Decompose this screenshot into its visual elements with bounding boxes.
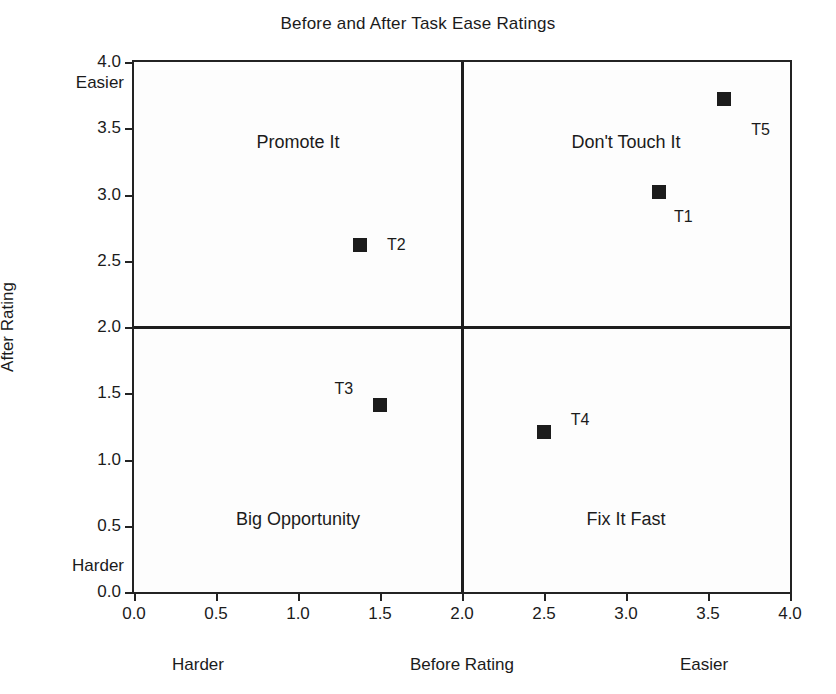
- data-point-t5: [717, 92, 731, 106]
- x-axis-tick: [626, 592, 628, 601]
- y-axis-tick-label: 0.0: [97, 582, 121, 602]
- chart-title: Before and After Task Ease Ratings: [0, 14, 836, 34]
- x-axis-tick: [708, 592, 710, 601]
- x-axis-tick: [544, 592, 546, 601]
- y-axis-tick: [125, 195, 134, 197]
- quadrant-label-bottom-right: Fix It Fast: [586, 509, 665, 530]
- data-point-label-t1: T1: [674, 208, 693, 226]
- data-point-t1: [652, 185, 666, 199]
- x-axis-tick-label: 1.5: [368, 604, 392, 624]
- y-axis-tick-label: 1.5: [97, 383, 121, 403]
- y-axis-tick-label: 3.0: [97, 185, 121, 205]
- y-axis-tick: [125, 327, 134, 329]
- x-axis-tick-label: 3.5: [696, 604, 720, 624]
- x-axis-tick-label: 0.5: [204, 604, 228, 624]
- data-point-label-t2: T2: [387, 236, 406, 254]
- plot-area: 0.00.51.01.52.02.53.03.54.00.00.51.01.52…: [132, 60, 792, 594]
- x-axis-tick-label: 2.0: [450, 604, 474, 624]
- x-axis-title: Before Rating: [410, 655, 514, 675]
- chart-figure: Before and After Task Ease Ratings 0.00.…: [0, 0, 836, 694]
- horizontal-reference-line: [134, 326, 790, 329]
- y-axis-high-annotation: Easier: [76, 73, 124, 93]
- y-axis-tick: [125, 128, 134, 130]
- y-axis-tick-label: 0.5: [97, 516, 121, 536]
- x-axis-tick: [216, 592, 218, 601]
- y-axis-tick: [125, 261, 134, 263]
- x-axis-tick: [380, 592, 382, 601]
- y-axis-tick-label: 2.5: [97, 251, 121, 271]
- y-axis-tick-label: 2.0: [97, 317, 121, 337]
- data-point-label-t4: T4: [571, 411, 590, 429]
- y-axis-tick: [125, 592, 134, 594]
- y-axis-tick: [125, 393, 134, 395]
- x-axis-tick-label: 4.0: [778, 604, 802, 624]
- data-point-label-t5: T5: [751, 121, 770, 139]
- y-axis-low-annotation: Harder: [72, 556, 124, 576]
- data-point-t3: [373, 398, 387, 412]
- y-axis-tick: [125, 460, 134, 462]
- x-axis-tick-label: 3.0: [614, 604, 638, 624]
- x-axis-tick-label: 2.5: [532, 604, 556, 624]
- x-axis-tick: [790, 592, 792, 601]
- y-axis-tick-label: 1.0: [97, 450, 121, 470]
- x-axis-low-annotation: Harder: [172, 655, 224, 675]
- x-axis-tick: [462, 592, 464, 601]
- quadrant-label-bottom-left: Big Opportunity: [236, 509, 360, 530]
- x-axis-tick-label: 0.0: [122, 604, 146, 624]
- quadrant-label-top-right: Don't Touch It: [571, 131, 680, 152]
- y-axis-tick-label: 4.0: [97, 52, 121, 72]
- y-axis-tick: [125, 62, 134, 64]
- x-axis-tick: [298, 592, 300, 601]
- x-axis-tick: [134, 592, 136, 601]
- y-axis-title: After Rating: [0, 282, 18, 372]
- y-axis-tick: [125, 526, 134, 528]
- data-point-label-t3: T3: [335, 380, 354, 398]
- x-axis-high-annotation: Easier: [680, 655, 728, 675]
- data-point-t2: [353, 238, 367, 252]
- quadrant-label-top-left: Promote It: [256, 131, 339, 152]
- data-point-t4: [537, 425, 551, 439]
- x-axis-tick-label: 1.0: [286, 604, 310, 624]
- y-axis-tick-label: 3.5: [97, 118, 121, 138]
